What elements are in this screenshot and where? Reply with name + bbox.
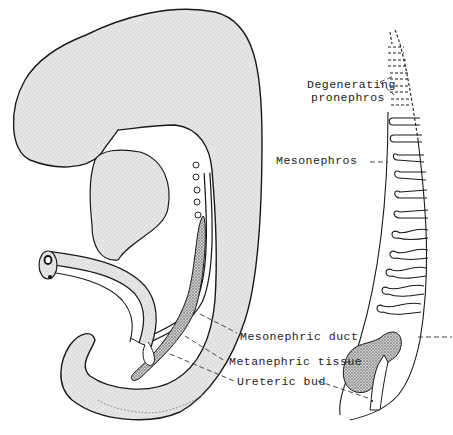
- label-degenerating-pronephros-2: pronephros: [311, 91, 385, 104]
- label-mesonephros: Mesonephros: [276, 154, 357, 167]
- label-ureteric-bud: Ureteric bud: [237, 375, 326, 388]
- label-degenerating-pronephros-1: Degenerating: [307, 78, 396, 91]
- label-metanephric-tissue: Metanephric tissue: [229, 355, 362, 368]
- embryo-body: [14, 9, 262, 419]
- metanephros: [343, 332, 401, 410]
- label-mesonephric-duct: Mesonephric duct: [240, 330, 358, 343]
- kidney-development-diagram: [0, 0, 453, 435]
- hindgut: [39, 251, 155, 365]
- somites: [193, 162, 201, 218]
